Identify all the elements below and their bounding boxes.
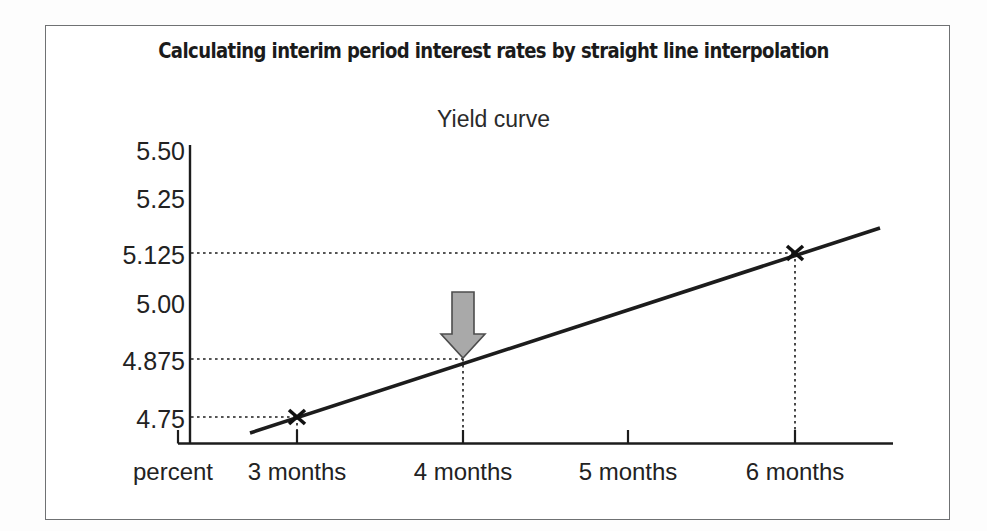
chart-plot-area xyxy=(0,0,987,531)
yield-curve-line xyxy=(250,228,880,433)
down-arrow-icon xyxy=(441,292,485,358)
chart-page: Calculating interim period interest rate… xyxy=(0,0,987,531)
